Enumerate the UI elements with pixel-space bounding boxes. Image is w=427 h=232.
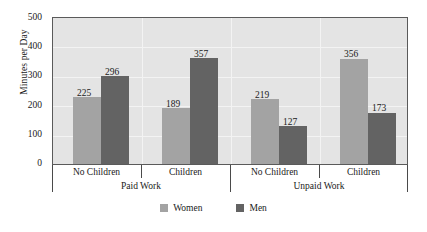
legend-entry-women: Women <box>160 203 202 213</box>
bar-paid-children-women <box>162 108 190 164</box>
men-swatch-icon <box>236 204 244 212</box>
y-tick-label-100: 100 <box>14 129 42 139</box>
value-label-unpaid-children-men: 173 <box>349 103 409 113</box>
gridline-vertical-1 <box>142 18 143 164</box>
y-tick-label-400: 400 <box>14 41 42 51</box>
gridline-vertical-3 <box>320 18 321 164</box>
x-label-paid-children: Children <box>141 167 230 178</box>
gridline-400 <box>53 47 407 48</box>
x-group-label-unpaid-work: Unpaid Work <box>230 181 408 192</box>
value-label-unpaid-nochildren-men: 127 <box>260 117 320 127</box>
bar-unpaid-children-men <box>368 113 396 164</box>
value-label-paid-nochildren-women: 225 <box>54 88 114 98</box>
y-tick-label-500: 500 <box>14 12 42 22</box>
value-label-paid-children-women: 189 <box>143 99 203 109</box>
y-tick-label-200: 200 <box>14 100 42 110</box>
x-label-unpaid-children: Children <box>319 167 408 178</box>
x-group-label-paid-work: Paid Work <box>52 181 230 192</box>
value-label-paid-nochildren-men: 296 <box>82 67 142 77</box>
legend-label-men: Men <box>249 203 266 213</box>
bar-unpaid-nochildren-women <box>251 99 279 164</box>
legend-label-women: Women <box>173 203 202 213</box>
value-label-unpaid-children-women: 356 <box>321 49 381 59</box>
bar-chart: Minutes per Day 500 400 300 200 100 0 22… <box>0 0 427 232</box>
x-label-unpaid-nochildren: No Children <box>230 167 319 178</box>
bar-unpaid-nochildren-men <box>279 126 307 164</box>
chart-legend: Women Men <box>0 203 427 213</box>
value-label-unpaid-nochildren-women: 219 <box>232 90 292 100</box>
women-swatch-icon <box>160 204 168 212</box>
x-label-paid-nochildren: No Children <box>52 167 141 178</box>
y-tick-label-300: 300 <box>14 70 42 80</box>
bar-paid-children-men <box>190 58 218 164</box>
legend-entry-men: Men <box>236 203 266 213</box>
value-label-paid-children-men: 357 <box>171 49 231 59</box>
y-tick-label-0: 0 <box>14 158 42 168</box>
bar-paid-nochildren-women <box>73 97 101 164</box>
